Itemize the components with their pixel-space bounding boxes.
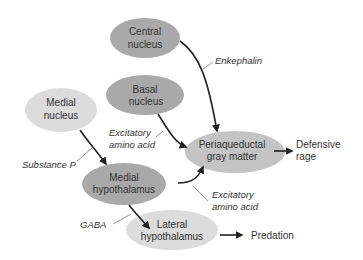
lateral-hypothalamus-label: Lateral (157, 219, 188, 230)
eaa1-label: Excitatory (109, 127, 152, 138)
pag-label-2: gray matter (207, 151, 258, 162)
arrow-basal-to-pag (158, 114, 186, 147)
central-nucleus-label: Central (129, 26, 161, 37)
defensive-rage-label-2: rage (296, 151, 316, 162)
lateral-hypothalamus-node (126, 210, 218, 250)
leader-eaa2 (193, 186, 208, 201)
medial-nucleus-label: Medial (46, 97, 75, 108)
predation-label: Predation (251, 230, 294, 241)
leader-gaba (113, 214, 131, 224)
central-nucleus-node (110, 18, 180, 58)
leader-substance-p (77, 148, 92, 161)
defensive-rage-label: Defensive (296, 139, 341, 150)
eaa1-label-2: amino acid (109, 139, 156, 150)
basal-nucleus-label-2: nucleus (129, 96, 163, 107)
basal-nucleus-node (106, 75, 184, 115)
neural-pathway-diagram: Central nucleus Basal nucleus Medial nuc… (0, 0, 363, 260)
arrow-central-to-pag (180, 41, 217, 131)
lateral-hypothalamus-label-2: hypothalamus (141, 231, 203, 242)
enkephalin-label: Enkephalin (215, 55, 262, 66)
leader-enkephalin (203, 62, 213, 69)
medial-hypothalamus-label: Medial (109, 172, 138, 183)
eaa2-label: Excitatory (212, 189, 255, 200)
central-nucleus-label-2: nucleus (128, 39, 162, 50)
arrow-medial-hypo-to-pag (178, 167, 203, 183)
arrow-medial-nucleus-to-medial-hypo (80, 130, 106, 164)
eaa2-label-2: amino acid (212, 201, 259, 212)
gaba-label: GABA (80, 219, 106, 230)
leader-eaa1 (156, 131, 163, 137)
basal-nucleus-label: Basal (132, 84, 157, 95)
pag-label: Periaqueductal (199, 139, 266, 150)
medial-hypothalamus-label-2: hypothalamus (93, 184, 155, 195)
substance-p-label: Substance P (22, 159, 77, 170)
medial-nucleus-label-2: nucleus (44, 110, 78, 121)
